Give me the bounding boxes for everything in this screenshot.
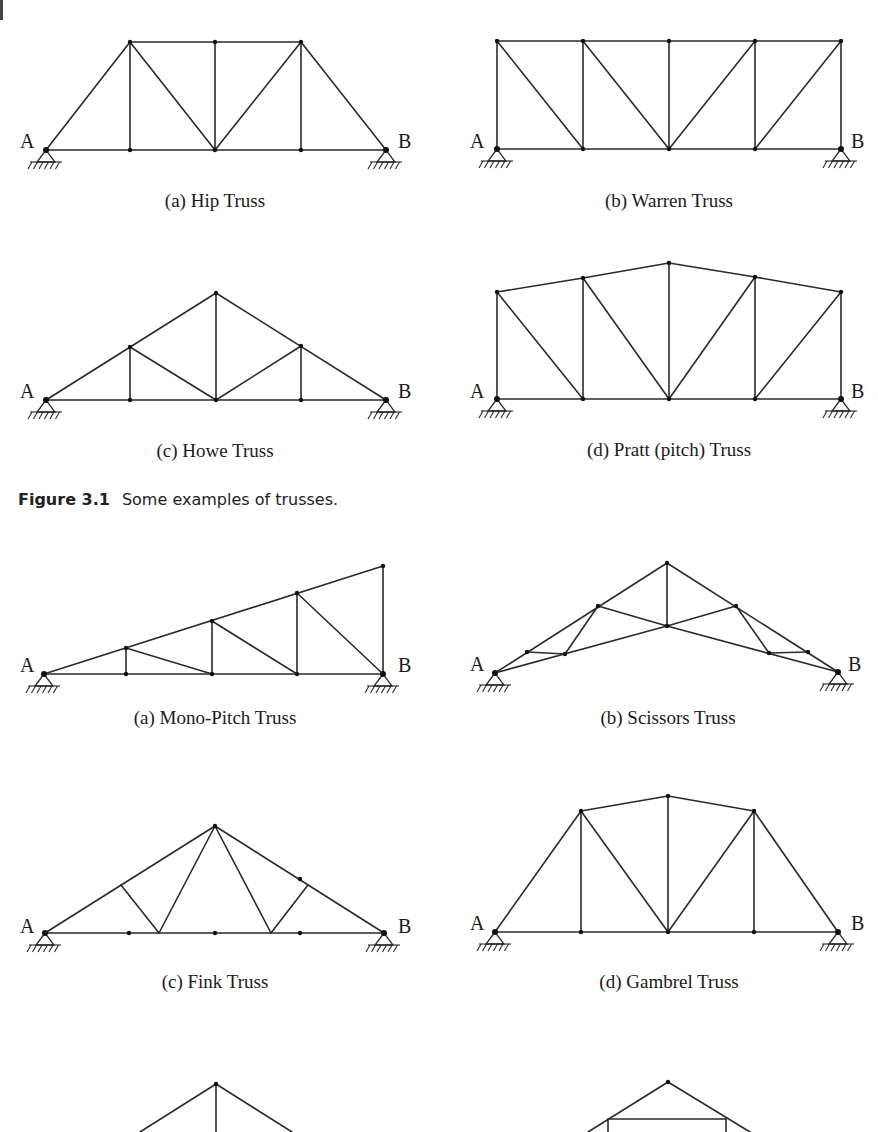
truss-caption: (c) Howe Truss <box>156 440 273 462</box>
truss-node <box>295 672 299 676</box>
support-label-a: A <box>20 654 35 676</box>
truss-member <box>45 826 215 933</box>
truss-caption: (b) Scissors Truss <box>600 707 735 729</box>
truss-partial-queen-post <box>588 1080 750 1132</box>
truss-partial-king-post <box>140 1082 292 1132</box>
pin-support-icon <box>28 150 62 169</box>
truss-node <box>806 650 810 654</box>
truss-member <box>140 1084 216 1132</box>
truss-member <box>668 1082 750 1132</box>
support-label-a: A <box>20 915 35 937</box>
truss-node <box>495 39 499 43</box>
truss-node <box>495 290 499 294</box>
truss-node <box>666 794 670 798</box>
support-node <box>381 930 387 936</box>
truss-member <box>497 41 583 149</box>
truss-node <box>299 148 303 152</box>
truss-member <box>495 811 581 932</box>
truss-fink: AB(c) Fink Truss <box>20 824 411 993</box>
truss-member <box>215 42 301 150</box>
truss-node <box>581 276 585 280</box>
truss-gambrel: AB(d) Gambrel Truss <box>470 794 864 993</box>
truss-node <box>213 824 217 828</box>
truss-member <box>755 41 841 149</box>
truss-node <box>839 39 843 43</box>
truss-member <box>755 292 841 399</box>
support-label-b: B <box>851 130 864 152</box>
truss-member <box>126 648 212 674</box>
truss-howe: AB(c) Howe Truss <box>20 291 411 462</box>
truss-member <box>216 346 301 400</box>
truss-pratt: AB(d) Pratt (pitch) Truss <box>470 261 864 461</box>
support-node <box>835 669 841 675</box>
support-label-a: A <box>470 380 485 402</box>
truss-member <box>271 885 308 933</box>
support-label-b: B <box>851 912 864 934</box>
truss-caption: (a) Mono-Pitch Truss <box>134 707 297 729</box>
truss-node <box>210 619 214 623</box>
truss-member <box>212 621 297 674</box>
truss-node <box>298 877 302 881</box>
truss-member <box>669 263 755 277</box>
support-label-a: A <box>470 912 485 934</box>
truss-member <box>583 263 669 278</box>
truss-node <box>752 930 756 934</box>
truss-member <box>46 42 130 150</box>
pin-support-icon <box>28 400 62 419</box>
truss-node <box>667 147 671 151</box>
truss-node <box>214 291 218 295</box>
support-node <box>383 147 389 153</box>
truss-member <box>581 811 668 932</box>
truss-node <box>596 604 600 608</box>
truss-member <box>669 41 755 149</box>
truss-node <box>753 397 757 401</box>
truss-node <box>667 39 671 43</box>
truss-member <box>668 811 754 932</box>
truss-node <box>214 398 218 402</box>
truss-member <box>527 652 565 654</box>
support-label-a: A <box>20 130 35 152</box>
support-node <box>494 146 500 152</box>
support-label-a: A <box>20 380 35 402</box>
truss-node <box>752 809 756 813</box>
truss-node <box>213 148 217 152</box>
truss-member <box>159 826 215 933</box>
truss-node <box>667 261 671 265</box>
truss-hip: AB(a) Hip Truss <box>20 40 411 212</box>
truss-member <box>497 278 583 292</box>
truss-node <box>753 275 757 279</box>
truss-node <box>581 39 585 43</box>
support-label-b: B <box>851 380 864 402</box>
pin-support-icon <box>820 932 854 951</box>
support-node <box>838 396 844 402</box>
truss-node <box>213 931 217 935</box>
support-node <box>492 929 498 935</box>
truss-figure-canvas: AB(a) Hip TrussAB(b) Warren TrussAB(c) H… <box>0 0 878 1132</box>
truss-node <box>127 931 131 935</box>
support-label-a: A <box>470 130 485 152</box>
pin-support-icon <box>368 150 402 169</box>
truss-member <box>755 277 841 292</box>
support-node <box>383 397 389 403</box>
truss-member <box>297 593 383 674</box>
truss-member <box>301 42 386 150</box>
truss-node <box>753 39 757 43</box>
pin-support-icon <box>477 673 511 692</box>
support-node <box>43 397 49 403</box>
truss-node <box>299 40 303 44</box>
truss-node <box>525 650 529 654</box>
truss-node <box>128 398 132 402</box>
truss-member <box>215 826 271 933</box>
support-node <box>835 929 841 935</box>
figure-caption-text: Some examples of trusses. <box>122 490 338 509</box>
truss-member <box>583 41 669 149</box>
support-label-b: B <box>398 915 411 937</box>
truss-node <box>124 646 128 650</box>
support-node <box>42 930 48 936</box>
truss-node <box>128 148 132 152</box>
truss-member <box>667 606 736 626</box>
truss-caption: (d) Pratt (pitch) Truss <box>587 439 751 461</box>
support-node <box>41 671 47 677</box>
truss-node <box>581 397 585 401</box>
truss-caption: (a) Hip Truss <box>165 190 265 212</box>
